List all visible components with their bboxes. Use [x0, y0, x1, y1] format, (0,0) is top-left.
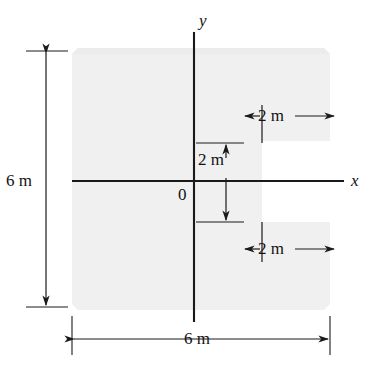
overall-height-label: 6 m: [6, 172, 32, 189]
x-axis-label: x: [351, 172, 359, 189]
diagram-canvas: [0, 0, 374, 368]
notch-depth-top-label: 2 m: [258, 107, 284, 124]
plate-shape: [72, 48, 330, 310]
dimension-diagram: y x 0 6 m 6 m 2 m 2 m 2 m: [0, 0, 374, 368]
y-axis-label: y: [199, 12, 207, 29]
overall-width-label: 6 m: [184, 330, 210, 347]
notch-half-height-label: 2 m: [198, 151, 224, 168]
plate-chamfer-shading: [72, 48, 330, 54]
origin-label: 0: [178, 186, 187, 203]
notch-depth-bottom-label: 2 m: [258, 240, 284, 257]
